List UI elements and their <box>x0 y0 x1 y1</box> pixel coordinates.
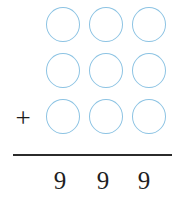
plus-operator-icon: + <box>12 106 34 130</box>
sum-digit: 9 <box>49 165 71 197</box>
bubble-row-1 <box>45 7 171 45</box>
sum-digit: 9 <box>133 165 155 197</box>
bubble-row-2 <box>45 53 171 91</box>
addition-worksheet: + 9 9 9 <box>0 0 180 203</box>
answer-bubble[interactable] <box>46 99 80 134</box>
answer-bubble[interactable] <box>89 7 123 42</box>
answer-bubble[interactable] <box>132 99 166 134</box>
bubble-row-3 <box>45 99 171 137</box>
answer-bubble[interactable] <box>132 7 166 42</box>
answer-bubble[interactable] <box>89 53 123 88</box>
bubble-grid <box>45 7 171 139</box>
sum-digit: 9 <box>92 165 114 197</box>
answer-bubble[interactable] <box>132 53 166 88</box>
answer-bubble[interactable] <box>89 99 123 134</box>
sum-divider-line <box>13 154 172 156</box>
sum-row: 9 9 9 <box>40 165 172 199</box>
answer-bubble[interactable] <box>46 53 80 88</box>
answer-bubble[interactable] <box>46 7 80 42</box>
